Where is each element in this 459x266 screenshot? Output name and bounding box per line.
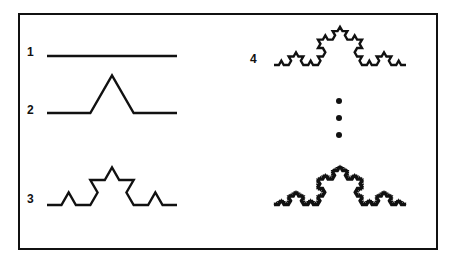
koch-curve-iteration-limit — [273, 158, 407, 208]
stage-label-1: 1 — [27, 46, 34, 58]
koch-path-3 — [274, 27, 406, 65]
koch-curve-iteration-3 — [273, 20, 407, 68]
koch-curve-iteration-2 — [46, 162, 178, 208]
ellipsis-dot — [336, 98, 342, 104]
koch-path-2 — [47, 167, 177, 205]
koch-path-limit — [274, 167, 406, 205]
ellipsis-dot — [336, 115, 342, 121]
stage-label-4: 4 — [250, 53, 257, 65]
stage-label-3: 3 — [27, 193, 34, 205]
koch-curve-iteration-0 — [46, 44, 178, 68]
koch-curve-figure: 1 2 3 4 — [0, 0, 459, 266]
koch-curve-iteration-1 — [46, 78, 178, 118]
ellipsis-dot — [336, 132, 342, 138]
stage-label-2: 2 — [27, 104, 34, 116]
vertical-ellipsis — [333, 98, 345, 138]
koch-path-1 — [47, 75, 177, 113]
